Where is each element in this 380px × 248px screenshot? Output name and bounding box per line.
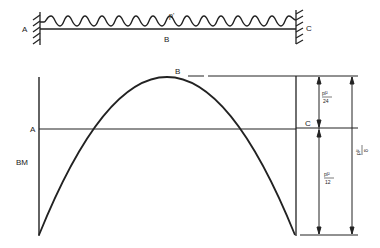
svg-text:12: 12 bbox=[325, 179, 331, 185]
svg-text:pl²: pl² bbox=[355, 149, 361, 155]
load-label: p' bbox=[169, 12, 174, 20]
svg-text:pl²: pl² bbox=[322, 90, 328, 96]
bm-curve bbox=[39, 77, 295, 235]
beam-schematic: A C B p' bbox=[22, 10, 312, 45]
fraction-total: pl² 8 bbox=[355, 145, 369, 155]
bending-moment-diagram: A BM B C pl² 24 pl² 12 pl² 8 bbox=[16, 67, 369, 236]
fixed-beam-diagram: A C B p' A BM B C bbox=[0, 0, 380, 248]
fraction-top: pl² 24 bbox=[322, 90, 332, 104]
distributed-load-icon bbox=[40, 16, 296, 26]
left-fixed-support-icon bbox=[33, 12, 40, 45]
beam-label-a: A bbox=[22, 25, 28, 34]
bm-label-a: A bbox=[30, 125, 36, 134]
fraction-bottom: pl² 12 bbox=[324, 171, 334, 185]
svg-text:8: 8 bbox=[363, 149, 369, 152]
svg-text:24: 24 bbox=[323, 98, 329, 104]
bm-label-b: B bbox=[175, 67, 180, 76]
dimension-arrow-total bbox=[350, 77, 354, 234]
svg-text:pl²: pl² bbox=[324, 171, 330, 177]
beam-label-c: C bbox=[306, 24, 312, 33]
beam-label-b: B bbox=[164, 35, 169, 44]
bm-label-c: C bbox=[305, 119, 311, 128]
bm-axis-label: BM bbox=[16, 158, 28, 167]
right-fixed-support-icon bbox=[296, 10, 303, 44]
dimension-arrow-top bbox=[317, 77, 321, 234]
